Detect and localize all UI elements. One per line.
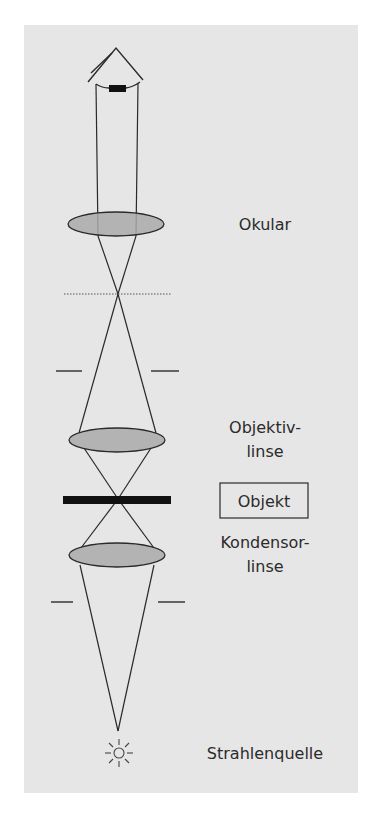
eye-lash [91,53,112,73]
label-condenser-line1: Kondensor- [220,533,309,552]
eye-pupil [109,85,126,92]
label-ocular: Okular [239,215,292,234]
label-object: Objekt [238,492,291,511]
label-condenser-line2: linse [246,557,283,576]
ocular-lens [68,212,164,236]
label-light-source: Strahlenquelle [207,744,323,763]
ray-obj-right [118,448,151,499]
ray-cond-right [118,499,154,548]
ray-cond-left [81,499,118,548]
ray-oc-left [98,236,118,294]
microscope-beam-path-diagram: Okular Objektiv- linse Objekt Kondensor-… [0,0,373,816]
ray-mid-right [118,294,156,433]
label-objective-line1: Objektiv- [229,418,301,437]
sun-icon [105,739,133,767]
condenser-lens [69,543,165,567]
label-objective-line2: linse [246,442,283,461]
ray-low-right [118,565,154,731]
light-rays [79,83,156,731]
ray-obj-left [84,448,118,499]
ray-mid-left [79,294,118,433]
ray-oc-right [118,236,136,294]
object-bar [63,496,171,504]
ray-low-left [80,565,118,731]
eye-upper-lid [88,48,143,82]
objective-lens [69,428,165,452]
